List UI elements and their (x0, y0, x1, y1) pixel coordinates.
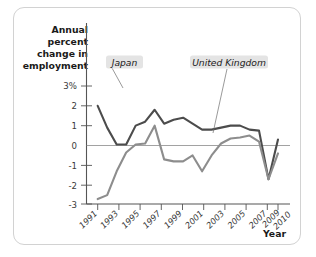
y-tick-label-3: 3% (63, 81, 77, 91)
y-tick-label-1: 1 (72, 121, 77, 131)
x-tick-label-2001: 2001 (183, 208, 205, 230)
x-tick-label-1995: 1995 (119, 208, 141, 230)
x-axis-tick-labels: 1991 1993 1995 1997 1999 2001 2003 2005 … (77, 207, 293, 231)
y-axis-title-line-2: change in (37, 48, 88, 59)
chart-axes (87, 23, 291, 204)
y-tick-label-n3: -3 (68, 200, 77, 210)
y-axis-title-line-1: percent (48, 36, 89, 47)
annotation-japan: Japan (106, 56, 143, 89)
y-axis-tick-labels: 3% 2 1 0 -1 -2 -3 (63, 81, 77, 209)
y-axis-title-line-0: Annual (51, 24, 88, 35)
line-chart-svg: Annual percent change in employment 3% (14, 8, 302, 246)
x-tick-label-1997: 1997 (141, 208, 164, 231)
series-line-united-kingdom (98, 106, 278, 179)
x-axis-ticks (98, 204, 278, 210)
figure-container: Annual percent change in employment 3% (13, 7, 301, 245)
annotation-united-kingdom: United Kingdom (190, 56, 268, 134)
x-axis-name: Year (262, 228, 286, 239)
y-tick-label-2: 2 (72, 101, 77, 111)
x-tick-label-2005: 2005 (225, 208, 247, 230)
y-tick-label-n2: -2 (68, 181, 77, 191)
chart-canvas: Annual percent change in employment 3% (14, 8, 302, 246)
x-tick-label-2003: 2003 (204, 208, 226, 230)
annotation-japan-label: Japan (110, 57, 138, 68)
x-tick-label-1993: 1993 (98, 208, 120, 230)
annotation-uk-label: United Kingdom (192, 57, 266, 68)
y-tick-label-n1: -1 (68, 161, 77, 171)
x-tick-label-1991: 1991 (77, 208, 99, 230)
series-line-japan (98, 126, 278, 199)
x-tick-label-1999: 1999 (162, 208, 184, 230)
y-axis-title: Annual percent change in employment (23, 24, 89, 71)
y-tick-label-0: 0 (72, 141, 77, 151)
y-axis-title-line-3: employment (23, 60, 89, 71)
